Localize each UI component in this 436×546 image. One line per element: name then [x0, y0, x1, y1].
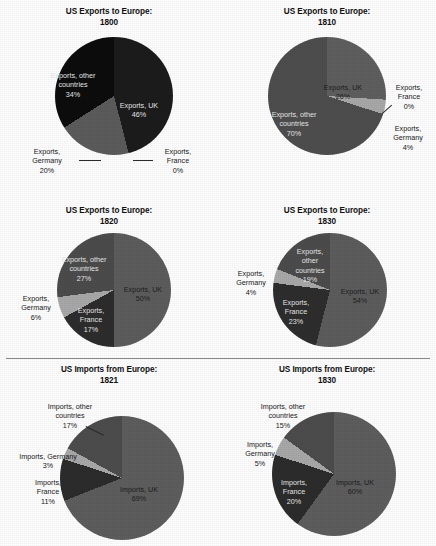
- pie-label-france-pct: 11%: [41, 497, 55, 506]
- pie-plot-exports-1800: Exports, other countries 34% Exports, UK…: [0, 28, 218, 178]
- pie-label-other-pct: 19%: [303, 275, 317, 284]
- pie-label-france-1820: Exports, France 17%: [62, 306, 120, 334]
- pie-label-other-name2: countries: [69, 264, 98, 273]
- pie-label-other-pct: 27%: [77, 274, 91, 283]
- pie-label-germany-name: Exports,: [23, 294, 49, 303]
- pie-label-germany-name2: Germany: [245, 449, 275, 458]
- pie-label-france-pct: 23%: [289, 317, 303, 326]
- pie-label-uk-pct: 50%: [136, 294, 150, 303]
- pie-label-france-name2: France: [80, 315, 102, 324]
- pie-label-uk-pct: 46%: [132, 110, 146, 119]
- pie-label-uk-name: Exports, UK: [120, 101, 158, 110]
- pie-label-france-name: Exports,: [165, 147, 191, 156]
- pie-label-france-1810: Exports, France 0%: [384, 83, 434, 111]
- pie-label-germany-name: Imports,: [247, 440, 273, 449]
- pie-label-france-name: Imports,: [281, 478, 307, 487]
- pie-label-other-1830: Imports, other countries 15%: [240, 402, 326, 430]
- pie-label-france-name2: France: [37, 487, 59, 496]
- pie-label-france-1800: Exports, France 0%: [152, 147, 204, 175]
- pie-label-germany-pct: 4%: [246, 288, 256, 297]
- pie-label-uk-1810: Exports, UK 26%: [308, 83, 378, 102]
- chart-title-text: US Imports from Europe:: [61, 365, 157, 374]
- pie-label-other-1810: Exports, other countries 70%: [258, 110, 330, 138]
- pie-label-germany-pct: 20%: [40, 166, 54, 175]
- pie-label-other-pct: 70%: [287, 129, 301, 138]
- pie-label-germany-pct: 6%: [31, 313, 41, 322]
- pie-label-france-pct: 0%: [173, 166, 183, 175]
- chart-year: 1830: [218, 216, 436, 227]
- pie-label-other-name: Exports, other: [62, 255, 107, 264]
- pie-label-other-name2: countries: [58, 80, 87, 89]
- pie-label-uk-name: Exports, UK: [324, 83, 362, 92]
- pie-label-germany-1820: Exports, Germany 6%: [8, 294, 64, 322]
- pie-label-france-name2: France: [398, 92, 420, 101]
- pie-label-germany-name2: Germany: [32, 156, 62, 165]
- pie-label-germany-name2: Germany: [236, 278, 266, 287]
- chart-title-text: US Exports to Europe:: [66, 206, 152, 215]
- pie-label-germany-name: Exports,: [238, 269, 264, 278]
- pie-label-uk-pct: 69%: [132, 494, 146, 503]
- pie-label-germany-name: Exports,: [34, 147, 60, 156]
- pie-label-other-name: Exports, other: [51, 71, 96, 80]
- chart-year: 1800: [0, 17, 218, 28]
- pie-label-other-name2: countries: [55, 411, 84, 420]
- chart-year: 1810: [218, 17, 436, 28]
- pie-label-uk-pct: 26%: [336, 92, 350, 101]
- pie-label-france-1830: Exports, France 23%: [268, 298, 324, 326]
- pie-label-other-pct: 34%: [66, 90, 80, 99]
- chart-panel-imports-1821: US Imports from Europe: 1821 Imports, ot…: [0, 364, 218, 546]
- chart-title-imports-1830: US Imports from Europe: 1830: [218, 364, 436, 386]
- pie-label-other-name: Imports, other: [48, 402, 92, 411]
- pie-label-germany-name2: Germany: [393, 133, 423, 142]
- pie-label-germany-pct: 4%: [403, 143, 413, 152]
- pie-label-other-name: Exports, other: [272, 110, 317, 119]
- pie-label-germany-name: Imports, Germany: [19, 452, 77, 461]
- pie-label-other-name2: other: [302, 256, 318, 265]
- leader-line-germany-1800: [79, 160, 101, 161]
- pie-plot-exports-1810: Exports, UK 26% Exports, other countries…: [218, 28, 436, 178]
- chart-panel-exports-1810: US Exports to Europe: 1810 Exports, UK 2…: [218, 6, 436, 178]
- chart-year: 1820: [0, 216, 218, 227]
- pie-plot-exports-1820: Exports, other countries 27% Exports, UK…: [0, 227, 218, 362]
- pie-label-germany-1821: Imports, Germany 3%: [6, 452, 90, 471]
- chart-title-text: US Exports to Europe:: [284, 7, 370, 16]
- pie-label-uk-name: Exports, UK: [124, 285, 162, 294]
- pie-label-other-name2: countries: [279, 119, 308, 128]
- pie-label-france-1830: Imports, France 20%: [266, 478, 322, 506]
- pie-label-other-name3: countries: [295, 266, 324, 275]
- chart-panel-exports-1830: US Exports to Europe: 1830 Exports, othe…: [218, 205, 436, 362]
- pie-label-uk-name: Imports, UK: [336, 478, 374, 487]
- pie-label-france-name: Exports,: [396, 83, 422, 92]
- chart-panel-imports-1830: US Imports from Europe: 1830 Imports, ot…: [218, 364, 436, 546]
- pie-label-france-name2: France: [283, 487, 305, 496]
- pie-label-france-1821: Imports, France 11%: [18, 478, 78, 506]
- pie-label-other-1800: Exports, other countries 34%: [37, 71, 109, 99]
- pie-label-france-name2: France: [285, 307, 307, 316]
- chart-title-exports-1810: US Exports to Europe: 1810: [218, 6, 436, 28]
- pie-label-uk-1820: Exports, UK 50%: [110, 285, 176, 304]
- pie-label-uk-pct: 60%: [348, 487, 362, 496]
- pie-label-other-name: Imports, other: [261, 402, 305, 411]
- pie-label-uk-name: Imports, UK: [120, 485, 158, 494]
- pie-label-germany-pct: 5%: [255, 459, 265, 468]
- pie-label-france-name: Exports,: [78, 306, 104, 315]
- pie-label-uk-name: Exports, UK: [341, 287, 379, 296]
- pie-label-other-1821: Imports, other countries 17%: [28, 402, 112, 430]
- chart-title-text: US Exports to Europe:: [284, 206, 370, 215]
- pie-label-uk-pct: 54%: [353, 296, 367, 305]
- pie-label-other-1830: Exports, other countries 19%: [280, 247, 340, 285]
- pie-label-uk-1800: Exports, UK 46%: [108, 101, 170, 120]
- pie-label-germany-name: Exports,: [395, 124, 421, 133]
- chart-panel-exports-1800: US Exports to Europe: 1800 Exports, othe…: [0, 6, 218, 178]
- chart-year: 1830: [218, 375, 436, 386]
- pie-label-france-pct: 0%: [404, 102, 414, 111]
- pie-label-uk-1830: Imports, UK 60%: [322, 478, 388, 497]
- pie-imports-1821: [60, 416, 184, 540]
- pie-label-other-1820: Exports, other countries 27%: [48, 255, 120, 283]
- pie-label-germany-1800: Exports, Germany 20%: [16, 147, 78, 175]
- leader-line-france-1800: [133, 160, 153, 161]
- chart-title-exports-1820: US Exports to Europe: 1820: [0, 205, 218, 227]
- chart-year: 1821: [0, 375, 218, 386]
- section-divider: [6, 358, 430, 359]
- pie-imports-1830: [272, 412, 396, 536]
